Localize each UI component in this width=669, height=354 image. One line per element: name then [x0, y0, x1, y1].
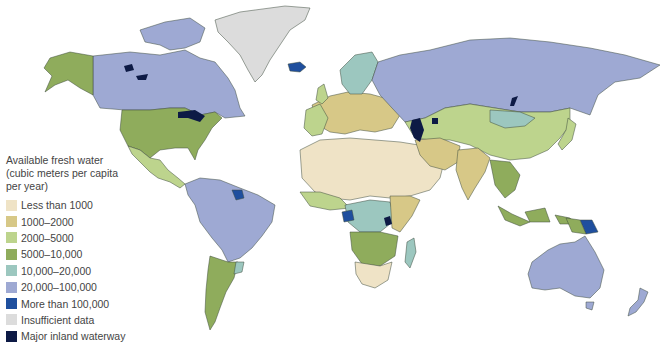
legend-swatch — [6, 298, 17, 309]
legend-item: Insufficient data — [6, 312, 166, 328]
region-canada — [93, 50, 245, 118]
region-alaska — [44, 52, 93, 95]
region-south-america — [185, 178, 275, 262]
legend-item: Major inland waterway — [6, 328, 166, 344]
legend-label: Insufficient data — [21, 314, 94, 326]
legend-label: 10,000–20,000 — [21, 265, 91, 277]
legend-title-line: (cubic meters per capita — [6, 167, 166, 180]
legend-label: Less than 1000 — [21, 199, 93, 211]
legend-item: Less than 1000 — [6, 197, 166, 213]
region-iceland — [288, 62, 306, 72]
legend-swatch — [6, 331, 17, 342]
region-australia — [528, 236, 604, 298]
region-madagascar — [405, 238, 416, 268]
legend-item: 2000–5000 — [6, 230, 166, 246]
legend-swatch — [6, 216, 17, 227]
region-southern-africa — [350, 232, 398, 266]
region-southeast-asia — [490, 160, 520, 198]
legend-title: Available fresh water (cubic meters per … — [6, 154, 166, 193]
legend-item: 20,000–100,000 — [6, 279, 166, 295]
legend: Available fresh water (cubic meters per … — [6, 154, 166, 345]
region-east-africa — [390, 196, 420, 232]
region-tasmania — [586, 302, 594, 310]
waterway-aral-sea — [432, 118, 438, 124]
legend-item: 10,000–20,000 — [6, 263, 166, 279]
legend-swatch — [6, 249, 17, 260]
region-south-africa — [355, 262, 392, 288]
legend-title-line: Available fresh water — [6, 154, 166, 167]
legend-swatch — [6, 265, 17, 276]
legend-label: 1000–2000 — [21, 216, 74, 228]
legend-label: Major inland waterway — [21, 330, 125, 342]
legend-item: 5000–10,000 — [6, 246, 166, 262]
legend-label: 2000–5000 — [21, 232, 74, 244]
region-canada-islands — [140, 18, 205, 50]
region-argentina — [205, 256, 238, 330]
legend-label: 5000–10,000 — [21, 248, 82, 260]
legend-swatch — [6, 232, 17, 243]
legend-item: More than 100,000 — [6, 295, 166, 311]
region-gabon — [342, 210, 354, 222]
region-new-zealand — [628, 288, 648, 316]
legend-swatch — [6, 282, 17, 293]
legend-swatch — [6, 200, 17, 211]
legend-swatch — [6, 314, 17, 325]
legend-title-line: per year) — [6, 180, 166, 193]
region-uruguay — [234, 262, 244, 274]
legend-label: 20,000–100,000 — [21, 281, 97, 293]
region-russia — [372, 38, 660, 122]
region-indonesia — [498, 206, 575, 226]
region-scandinavia — [340, 52, 378, 94]
legend-item: 1000–2000 — [6, 213, 166, 229]
legend-label: More than 100,000 — [21, 298, 109, 310]
region-india — [456, 148, 490, 200]
